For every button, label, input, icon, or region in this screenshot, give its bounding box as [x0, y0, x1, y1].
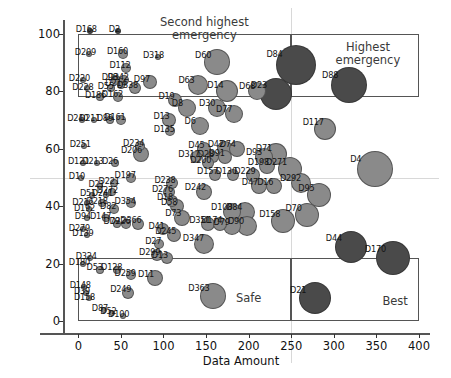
point-label: D245: [155, 226, 176, 236]
point-label: D23: [251, 80, 267, 90]
point-label: D21: [290, 285, 306, 295]
point-label: D13: [153, 111, 169, 121]
point-label: D158: [74, 292, 95, 302]
bubble-point: [357, 151, 393, 187]
quadrant-label-best: Best: [382, 295, 407, 308]
point-label: D363: [188, 283, 209, 293]
x-tick: [78, 334, 79, 338]
x-tick-label: 0: [75, 339, 82, 353]
point-label: D168: [76, 24, 97, 34]
point-label: D14: [207, 80, 223, 90]
point-label: D90: [228, 216, 244, 226]
point-label: D73: [165, 208, 181, 218]
x-tick: [121, 334, 122, 338]
x-tick-label: 200: [238, 339, 260, 353]
point-label: D84: [226, 202, 242, 212]
point-label: D4: [350, 154, 361, 164]
quadrant-label-safe: Safe: [236, 292, 261, 305]
point-label: D209: [75, 47, 96, 57]
x-axis-title: Data Amount: [203, 354, 279, 368]
point-label: D162: [102, 89, 123, 99]
point-label: D6: [185, 116, 196, 126]
point-label: D318: [143, 50, 164, 60]
point-label: D58: [161, 197, 177, 207]
y-tick-label: 20: [34, 257, 60, 271]
point-label: D27: [145, 236, 161, 246]
point-label: D347: [183, 233, 204, 243]
point-label: D10: [69, 171, 85, 181]
point-label: D16: [257, 177, 273, 187]
point-label: D2: [109, 24, 120, 34]
y-axis-line: [63, 20, 65, 335]
point-label: D161: [104, 112, 125, 122]
x-tick: [206, 334, 207, 338]
point-label: D238: [154, 175, 175, 185]
y-tick-label: 0: [34, 314, 60, 328]
x-tick: [376, 334, 377, 338]
y-tick-label: 40: [34, 199, 60, 213]
point-label: D100: [108, 309, 129, 319]
point-label: D8: [172, 98, 183, 108]
point-label: D44: [326, 233, 342, 243]
point-label: D206: [121, 145, 142, 155]
point-label: D135: [154, 124, 175, 134]
point-label: D259: [115, 268, 136, 278]
bubble-chart: Second highest emergencyHighest emergenc…: [0, 0, 451, 378]
x-tick-label: 50: [114, 339, 129, 353]
quadrant-label-second-highest-emergency: Second highest emergency: [160, 16, 249, 42]
point-label: D272: [97, 185, 118, 195]
y-tick-label: 80: [34, 84, 60, 98]
point-label: D117: [303, 117, 324, 127]
point-label: D200: [190, 155, 211, 165]
point-label: D95: [298, 183, 314, 193]
x-tick: [163, 334, 164, 338]
y-tick-label: 60: [34, 142, 60, 156]
point-label: D249: [110, 284, 131, 294]
x-tick-label: 150: [195, 339, 217, 353]
point-label: D71: [256, 143, 272, 153]
point-label: D88: [322, 70, 338, 80]
point-label: D160: [107, 46, 128, 56]
x-tick-label: 300: [323, 339, 345, 353]
point-label: D242: [185, 182, 206, 192]
x-tick-label: 100: [153, 339, 175, 353]
x-tick-label: 350: [365, 339, 387, 353]
point-label: D271: [266, 157, 287, 167]
x-tick-label: 250: [280, 339, 302, 353]
point-label: D47: [242, 177, 258, 187]
point-label: D292: [280, 173, 301, 183]
point-label: D26: [102, 156, 118, 166]
point-label: D211: [79, 113, 100, 123]
point-label: D139: [72, 228, 93, 238]
point-label: D63: [179, 75, 195, 85]
point-label: D13: [152, 250, 168, 260]
quadrant-label-highest-emergency: Highest emergency: [326, 41, 409, 67]
point-label: D366: [120, 215, 141, 225]
point-label: D229: [234, 166, 255, 176]
y-tick-label: 100: [34, 27, 60, 41]
point-label: D77: [216, 104, 232, 114]
point-label: D354: [115, 196, 136, 206]
point-label: D30: [199, 98, 215, 108]
x-tick: [249, 334, 250, 338]
point-label: D70: [286, 203, 302, 213]
x-tick: [334, 334, 335, 338]
point-label: D11: [138, 269, 154, 279]
point-label: D112: [109, 60, 130, 70]
point-label: D84: [266, 49, 282, 59]
point-label: D170: [365, 244, 386, 254]
point-label: D158: [259, 209, 280, 219]
x-tick: [419, 334, 420, 338]
point-label: D60: [195, 50, 211, 60]
point-label: D213: [82, 156, 103, 166]
x-axis-line: [40, 333, 430, 335]
point-label: D94: [75, 211, 91, 221]
x-tick: [291, 334, 292, 338]
point-label: D251: [70, 139, 91, 149]
x-tick-label: 400: [408, 339, 430, 353]
